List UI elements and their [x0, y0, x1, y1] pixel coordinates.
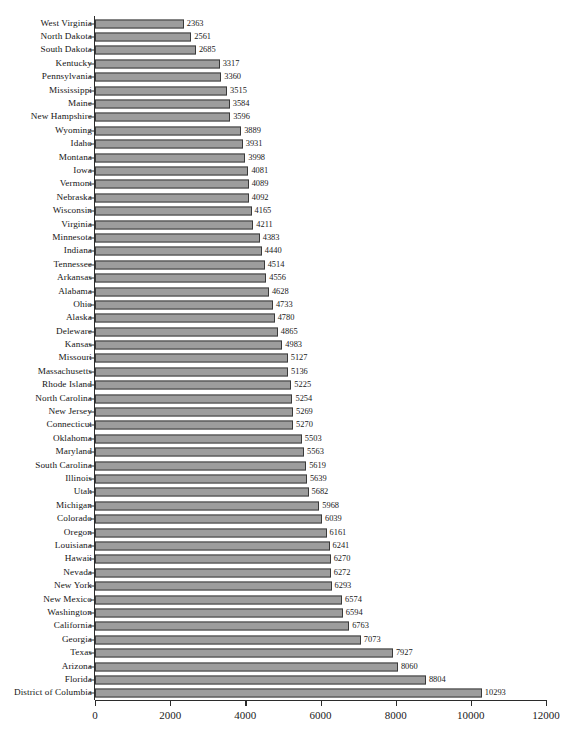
bar [95, 448, 304, 457]
category-label: New York [54, 582, 92, 591]
bar-value-label: 10293 [482, 689, 506, 697]
bar-value-label: 8804 [426, 676, 446, 684]
bar-row: Rhode Island5225 [0, 379, 573, 392]
bar-value-label: 4440 [262, 247, 282, 255]
x-axis-tick-label: 0 [92, 710, 98, 721]
bar [95, 595, 342, 604]
bar [95, 515, 322, 524]
bar [95, 341, 282, 350]
category-label: Arizona [62, 662, 92, 671]
category-label: Alabama [58, 287, 92, 296]
bar-value-label: 3889 [241, 127, 261, 135]
bar [95, 46, 196, 55]
category-label: Virginia [61, 220, 92, 229]
bar-value-label: 4165 [252, 207, 272, 215]
bar-value-label: 5127 [288, 354, 308, 362]
bar-row: Maryland5563 [0, 446, 573, 459]
bar-row: Missouri5127 [0, 352, 573, 365]
bar [95, 287, 269, 296]
bar-row: Illinois5639 [0, 472, 573, 485]
bar-row: Texas7927 [0, 646, 573, 659]
category-label: Kentucky [55, 59, 92, 68]
bar-row: Arizona8060 [0, 660, 573, 673]
bar-row: South Dakota2685 [0, 44, 573, 57]
bar-row: Pennsylvania3360 [0, 71, 573, 84]
bar-row: Oklahoma5503 [0, 432, 573, 445]
category-label: North Dakota [41, 32, 92, 41]
x-axis-tick-label: 10000 [457, 710, 485, 721]
category-label: Oregon [64, 528, 92, 537]
bar-value-label: 2363 [184, 19, 204, 27]
bar-row: Utah5682 [0, 486, 573, 499]
category-label: Arkansas [57, 274, 92, 283]
bar-row: Vermont4089 [0, 178, 573, 191]
bar-row: New Jersey5269 [0, 405, 573, 418]
bar-value-label: 3596 [230, 113, 250, 121]
category-label: Hawaii [65, 555, 92, 564]
bar-value-label: 4081 [248, 167, 268, 175]
bar-row: Mississippi3515 [0, 84, 573, 97]
bar [95, 300, 273, 309]
bar [95, 113, 230, 122]
bar [95, 421, 293, 430]
bar [95, 488, 309, 497]
bar-value-label: 4092 [249, 194, 269, 202]
bar-row: Idaho3931 [0, 138, 573, 151]
bar-row: Ohio4733 [0, 298, 573, 311]
bar-value-label: 2685 [196, 46, 216, 54]
bar-value-label: 6574 [342, 595, 362, 603]
bar-value-label: 8060 [398, 662, 418, 670]
bar-row: North Dakota2561 [0, 30, 573, 43]
bar-row: Oregon6161 [0, 526, 573, 539]
category-label: Louisiana [55, 541, 92, 550]
bar-row: Nevada6272 [0, 566, 573, 579]
category-label: Nebraska [57, 193, 93, 202]
bar-row: South Carolina5619 [0, 459, 573, 472]
bar-row: Deleware4865 [0, 325, 573, 338]
bar-value-label: 7927 [393, 649, 413, 657]
bar [95, 367, 288, 376]
bar [95, 73, 221, 82]
bar [95, 475, 307, 484]
bar-value-label: 4780 [275, 314, 295, 322]
bar [95, 207, 252, 216]
bar-value-label: 5270 [293, 421, 313, 429]
bar [95, 381, 291, 390]
bar-value-label: 3360 [221, 73, 241, 81]
category-label: Nevada [63, 568, 92, 577]
category-label: Tennessee [53, 260, 92, 269]
x-axis-tick-label: 8000 [385, 710, 407, 721]
bar [95, 247, 262, 256]
bar [95, 635, 361, 644]
x-axis-tick [471, 700, 472, 706]
bar-value-label: 6272 [331, 569, 351, 577]
bar [95, 327, 278, 336]
bar-row: Florida8804 [0, 673, 573, 686]
bar [95, 555, 331, 564]
x-axis-tick-label: 12000 [532, 710, 560, 721]
category-label: Wyoming [55, 126, 92, 135]
bar-value-label: 5682 [309, 488, 329, 496]
bar-value-label: 6293 [332, 582, 352, 590]
bar [95, 528, 327, 537]
bar-row: Maine3584 [0, 97, 573, 110]
bar [95, 19, 184, 28]
category-label: North Carolina [35, 394, 92, 403]
bar [95, 662, 398, 671]
category-label: New Mexico [43, 595, 92, 604]
category-label: Washington [47, 608, 92, 617]
bar [95, 59, 220, 68]
x-axis-tick [170, 700, 171, 706]
bar [95, 260, 265, 269]
bar-value-label: 2561 [191, 33, 211, 41]
bar [95, 541, 330, 550]
bar-row: New Hampshire3596 [0, 111, 573, 124]
category-label: New Hampshire [31, 113, 92, 122]
bar-value-label: 4628 [269, 287, 289, 295]
x-axis-tick-label: 4000 [234, 710, 256, 721]
y-axis-line [94, 16, 95, 700]
bar-row: Virginia4211 [0, 218, 573, 231]
bar-row: Alaska4780 [0, 312, 573, 325]
category-label: South Dakota [41, 46, 92, 55]
x-axis-tick [546, 700, 547, 706]
